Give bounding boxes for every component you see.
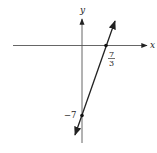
x-intercept-numerator: 7	[109, 50, 114, 59]
x-intercept-point	[104, 44, 108, 48]
x-intercept-denominator: 3	[109, 59, 114, 68]
graph-line	[75, 21, 115, 135]
y-axis-label: y	[79, 5, 86, 15]
x-axis-label: x	[150, 40, 155, 50]
y-intercept-label: −7	[64, 110, 77, 120]
y-intercept-point	[80, 114, 84, 118]
graph: y x 7 3 −7	[0, 0, 157, 153]
